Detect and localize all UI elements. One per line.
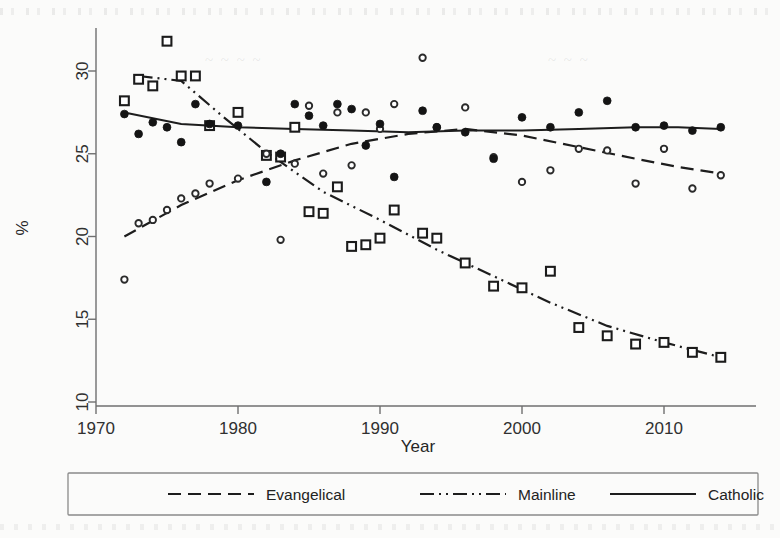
data-point (348, 105, 356, 113)
data-point (518, 283, 527, 292)
data-point (490, 155, 498, 163)
y-tick-label: 20 (73, 227, 92, 246)
data-point (334, 109, 340, 115)
data-point (362, 142, 370, 150)
data-point (234, 108, 243, 117)
x-tick-label: 1970 (77, 419, 115, 438)
x-axis-title: Year (401, 437, 436, 456)
data-point (163, 123, 171, 131)
legend-label-evangelical: Evangelical (266, 486, 345, 503)
data-point (547, 167, 553, 173)
data-point (418, 229, 427, 238)
x-tick-label: 1990 (361, 419, 399, 438)
data-point (419, 55, 425, 61)
legend: EvangelicalMainlineCatholic (68, 473, 764, 515)
data-point (461, 259, 470, 268)
data-point (575, 108, 583, 116)
data-point (305, 112, 313, 120)
data-point (603, 331, 612, 340)
data-point (347, 242, 356, 251)
data-point (547, 123, 555, 131)
data-point (135, 220, 141, 226)
figure-container: 1015202530 19701980199020002010 ~ ~ ~ ~ … (0, 0, 780, 538)
data-point (263, 151, 269, 157)
data-point (688, 348, 697, 357)
legend-items: EvangelicalMainlineCatholic (168, 486, 764, 503)
data-point (518, 113, 526, 121)
data-point (363, 109, 369, 115)
fit-lines-group (124, 76, 720, 357)
data-point (206, 120, 214, 128)
data-point (135, 130, 143, 138)
x-axis-ticks: 19701980199020002010 (77, 406, 683, 438)
data-point (660, 338, 669, 347)
data-point (319, 122, 327, 130)
data-point (192, 100, 200, 108)
data-point (134, 75, 143, 84)
data-point (717, 123, 725, 131)
data-point (348, 162, 354, 168)
data-point (306, 103, 312, 109)
data-point (632, 180, 638, 186)
data-point (235, 175, 241, 181)
y-axis-ticks: 1015202530 (73, 62, 97, 412)
x-tick-label: 2000 (503, 419, 541, 438)
x-tick-label: 2010 (645, 419, 683, 438)
scan-watermark: ~ ~ ~ ~ (205, 52, 263, 68)
data-point (178, 195, 184, 201)
markers-catholic (121, 97, 725, 186)
data-point (376, 120, 384, 128)
data-point (334, 100, 342, 108)
data-point (234, 122, 242, 130)
y-tick-label: 10 (73, 393, 92, 412)
y-tick-label: 25 (73, 144, 92, 163)
data-point (689, 185, 695, 191)
data-point (290, 123, 299, 132)
data-point (689, 127, 697, 135)
data-point (149, 118, 157, 126)
data-point (320, 170, 326, 176)
data-point (148, 81, 157, 90)
data-point (376, 234, 385, 243)
data-point (305, 207, 314, 216)
data-point (519, 179, 525, 185)
data-point (433, 123, 441, 131)
data-point (432, 234, 441, 243)
data-point (121, 110, 129, 118)
data-point (263, 178, 271, 186)
y-tick-label: 15 (73, 310, 92, 329)
scan-watermark-2: ~ ~ ~ (548, 52, 590, 68)
data-point (177, 138, 185, 146)
data-point (333, 182, 342, 191)
data-point (576, 146, 582, 152)
fit-line-mainline (139, 76, 721, 357)
data-point (121, 276, 127, 282)
data-point (277, 237, 283, 243)
data-point (319, 209, 328, 218)
fit-line-evangelical (124, 129, 720, 237)
data-point (191, 72, 200, 81)
markers-evangelical (121, 55, 724, 283)
data-point (361, 240, 370, 249)
data-point (277, 150, 285, 158)
y-tick-label: 30 (73, 62, 92, 81)
data-point (603, 97, 611, 105)
data-point (177, 72, 186, 81)
y-axis-title: % (13, 220, 32, 235)
data-point (718, 172, 724, 178)
data-point (292, 160, 298, 166)
markers-mainline (120, 37, 725, 362)
data-point (390, 206, 399, 215)
data-point (206, 180, 212, 186)
data-point (660, 122, 668, 130)
data-point (120, 96, 129, 105)
data-point (192, 190, 198, 196)
data-point (461, 128, 469, 136)
data-point (604, 147, 610, 153)
data-point (163, 37, 172, 46)
x-tick-label: 1980 (219, 419, 257, 438)
legend-label-catholic: Catholic (708, 486, 764, 503)
data-point (632, 123, 640, 131)
data-point (150, 217, 156, 223)
data-point (716, 353, 725, 362)
